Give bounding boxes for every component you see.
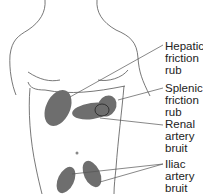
label-line: artery bbox=[165, 170, 194, 182]
label-line: bruit bbox=[165, 182, 194, 194]
iliac-right-region bbox=[79, 158, 105, 190]
iliac-label: Iliac artery bruit bbox=[165, 158, 194, 194]
abdomen-diagram: Hepatic friction rub Splenic friction ru… bbox=[0, 0, 203, 194]
hepatic-label: Hepatic friction rub bbox=[165, 40, 203, 76]
label-line: Iliac bbox=[165, 158, 194, 170]
label-line: rub bbox=[165, 106, 203, 118]
label-line: artery bbox=[165, 130, 195, 142]
label-line: Renal bbox=[165, 118, 195, 130]
label-line: bruit bbox=[165, 142, 195, 154]
label-line: Splenic bbox=[165, 82, 203, 94]
label-line: Hepatic bbox=[165, 40, 203, 52]
renal-label: Renal artery bruit bbox=[165, 118, 195, 154]
label-line: friction bbox=[165, 94, 203, 106]
iliac-left-region bbox=[53, 164, 79, 194]
label-line: rub bbox=[165, 64, 203, 76]
label-line: friction bbox=[165, 52, 203, 64]
splenic-label: Splenic friction rub bbox=[165, 82, 203, 118]
